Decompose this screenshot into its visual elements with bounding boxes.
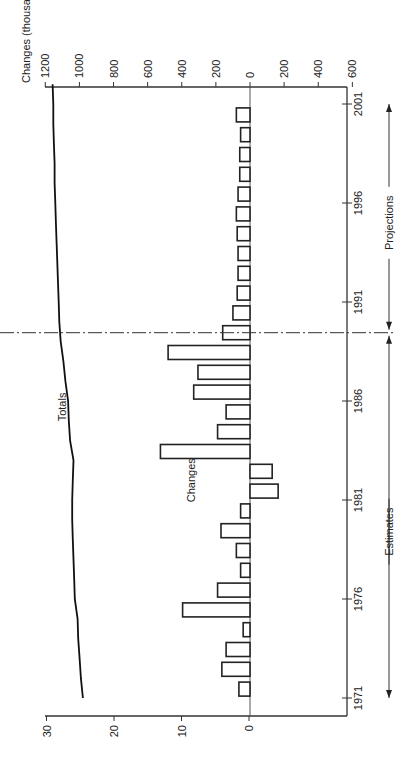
change-bar: [226, 643, 250, 657]
arrowhead-icon: [386, 690, 392, 698]
change-bar: [218, 425, 250, 439]
change-bar: [239, 682, 250, 696]
change-bar: [250, 484, 278, 498]
change-bar: [241, 563, 250, 577]
arrowhead-icon: [386, 104, 392, 112]
change-bar: [241, 504, 250, 518]
estimates-label: Estimates: [383, 507, 395, 556]
change-bar: [240, 148, 250, 162]
change-bar: [237, 286, 250, 300]
changes-tick-label: 600: [346, 60, 358, 78]
change-bar: [198, 365, 250, 379]
change-bar: [243, 623, 250, 637]
arrowhead-icon: [386, 336, 392, 344]
year-tick-label: 1976: [352, 587, 364, 611]
change-bar: [237, 227, 250, 241]
changes-tick-label: 1200: [39, 54, 51, 78]
change-bar: [236, 544, 250, 558]
year-tick-label: 1971: [352, 686, 364, 710]
totals-tick-label: 20: [108, 725, 120, 737]
change-bar: [238, 247, 250, 261]
change-bar: [233, 306, 250, 320]
totals-tick-label: 30: [41, 725, 53, 737]
changes-tick-label: 800: [108, 60, 120, 78]
projections-label: Projections: [383, 195, 395, 250]
change-bar: [238, 266, 250, 280]
totals-tick-label: 10: [176, 725, 188, 737]
chart-svg: 0102030Totals (millions)1200100080060040…: [0, 0, 420, 773]
changes-tick-label: 1000: [73, 54, 85, 78]
change-bar: [194, 385, 250, 399]
year-tick-label: 2001: [352, 92, 364, 116]
change-bar: [218, 583, 250, 597]
changes-tick-label: 400: [176, 60, 188, 78]
change-bar: [168, 346, 250, 360]
year-tick-label: 1991: [352, 290, 364, 314]
arrowhead-icon: [386, 322, 392, 330]
totals-line: [53, 84, 83, 698]
year-tick-label: 1981: [352, 488, 364, 512]
changes-tick-label: 0: [244, 72, 256, 78]
changes-tick-label: 200: [210, 60, 222, 78]
change-bar: [222, 662, 250, 676]
totals-series-label: Totals: [56, 392, 68, 421]
changes-tick-label: 400: [312, 60, 324, 78]
change-bar: [183, 603, 250, 617]
changes-tick-label: 600: [142, 60, 154, 78]
change-bar: [236, 108, 250, 122]
year-tick-label: 1996: [352, 191, 364, 215]
change-bar: [236, 207, 250, 221]
changes-axis-label: Changes (thousands): [20, 0, 32, 83]
change-bar: [221, 524, 250, 538]
change-bar: [160, 445, 250, 459]
change-bar: [240, 167, 250, 181]
changes-tick-label: 200: [278, 60, 290, 78]
change-bar: [250, 464, 272, 478]
year-tick-label: 1986: [352, 389, 364, 413]
chart-container: 0102030Totals (millions)1200100080060040…: [0, 0, 420, 773]
totals-tick-label: 0: [243, 725, 255, 731]
change-bar: [238, 187, 250, 201]
change-bar: [226, 405, 250, 419]
changes-series-label: Changes: [185, 458, 197, 503]
change-bar: [241, 128, 250, 142]
